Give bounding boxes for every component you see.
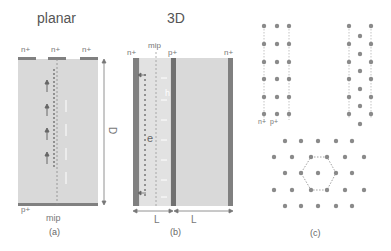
n-plus-electrode-3 [80,57,98,60]
spacing-label-1: L [154,214,160,225]
n-plus-electrode-1 [18,57,36,60]
3d-n-plus-label-right: n+ [224,48,233,57]
electrode-grid-left [262,24,291,120]
grid-n-plus-label: n+ [258,118,266,125]
thickness-arrow [102,59,106,205]
mip-label-b: mip [148,41,161,50]
3d-title: 3D [167,10,185,26]
hexagonal-grid [272,139,366,208]
p-plus-electrode [18,203,98,206]
spacing-label-2: L [191,214,197,225]
caption-b: (b) [170,227,181,237]
planar-substrate [18,59,98,204]
grid-p-plus-label: p+ [270,118,278,125]
3d-n-plus-label-left: n+ [127,48,136,57]
caption-c: (c) [310,228,321,238]
electron-label-b: e [147,132,153,144]
spacing-arrows [133,209,233,213]
n-plus-column-left [133,58,139,206]
electrode-grid-right [347,24,373,126]
n-plus-column-right [228,58,233,206]
3d-p-plus-label: p+ [168,48,177,57]
p-plus-column [171,58,176,206]
hole-label-b: h [165,88,170,98]
